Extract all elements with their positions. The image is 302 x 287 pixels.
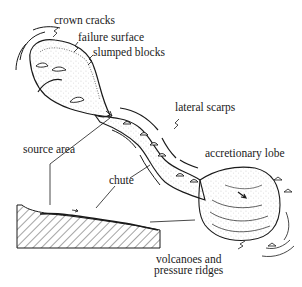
cross-section xyxy=(17,205,160,248)
label-source-area: source area xyxy=(23,143,75,155)
chute-shape xyxy=(95,108,205,200)
label-crown-cracks: crown cracks xyxy=(54,14,115,26)
label-pressure-ridges: pressure ridges xyxy=(154,264,223,276)
landslide-diagram: crown cracks failure surface slumped blo… xyxy=(0,0,302,287)
label-lateral-scarps: lateral scarps xyxy=(175,101,235,113)
label-failure-surface: failure surface xyxy=(78,31,144,43)
label-chute: chute xyxy=(109,174,134,186)
label-accretionary-lobe: accretionary lobe xyxy=(205,147,285,159)
accretionary-lobe-shape xyxy=(199,167,294,256)
label-slumped-blocks: slumped blocks xyxy=(93,46,165,58)
